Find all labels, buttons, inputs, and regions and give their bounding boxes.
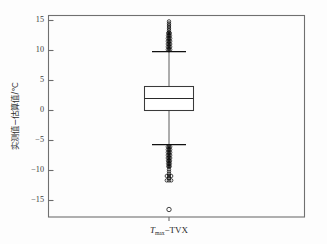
y-tick-label: 5 <box>40 75 44 84</box>
outlier-extreme-low <box>167 207 171 211</box>
boxplot-svg: 15 10 5 0 −5 −10 −15 实测值−估算值/℃ <box>0 0 327 244</box>
y-tick-label: 15 <box>36 15 44 24</box>
y-tick-label: −10 <box>31 165 44 174</box>
y-tick-label: −5 <box>35 135 44 144</box>
y-tick-label: 10 <box>36 45 44 54</box>
y-axis-label: 实测值−估算值/℃ <box>10 82 20 150</box>
boxplot-series <box>145 20 194 221</box>
outliers-lower <box>165 145 173 183</box>
outliers-upper <box>166 20 172 52</box>
y-axis-ticks <box>49 21 54 201</box>
x-axis-label-subscript: max <box>155 230 165 236</box>
boxplot-figure: 15 10 5 0 −5 −10 −15 实测值−估算值/℃ <box>0 0 327 244</box>
x-axis-label: Tmax−TVX <box>150 225 189 236</box>
y-tick-label: −15 <box>31 195 44 204</box>
y-tick-label: 0 <box>40 105 44 114</box>
y-axis-tick-labels: 15 10 5 0 −5 −10 −15 <box>31 15 44 204</box>
x-axis-label-tail: −TVX <box>165 225 189 235</box>
plot-frame <box>49 16 305 218</box>
